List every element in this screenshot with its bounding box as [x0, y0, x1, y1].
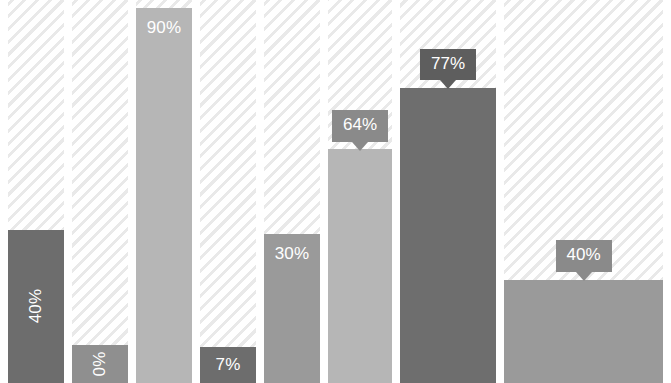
bar-label-6: 64% — [343, 115, 377, 134]
bar-callout-6: 64% — [332, 110, 388, 142]
bar-label-4: 7% — [200, 355, 256, 375]
bar-callout-8: 40% — [555, 240, 611, 272]
bar-label-2: 0% — [90, 351, 110, 376]
bar-label-7: 77% — [431, 54, 465, 73]
column-track-8: 40% — [504, 0, 663, 383]
callout-tail-8 — [576, 272, 592, 281]
column-track-6: 64% — [328, 0, 392, 383]
bar-label-8: 40% — [566, 245, 600, 264]
bar-7-fill[interactable] — [400, 88, 496, 383]
bar-6[interactable] — [328, 149, 392, 383]
column-track-5: 30% — [264, 0, 320, 383]
column-7-content: 77% — [400, 0, 496, 383]
bar-label-5: 30% — [264, 244, 320, 264]
column-track-3: 90% — [136, 0, 192, 383]
bar-4[interactable]: 7% — [200, 347, 256, 383]
bar-5[interactable]: 30% — [264, 234, 320, 383]
bar-label-3: 90% — [136, 18, 192, 38]
bar-callout-7: 77% — [420, 49, 476, 81]
column-track-2: 0% — [72, 0, 128, 383]
column-track-4: 7% — [200, 0, 256, 383]
column-track-1: 40% — [8, 0, 64, 383]
bar-8[interactable] — [504, 280, 663, 383]
bar-2[interactable]: 0% — [72, 345, 128, 383]
bar-1[interactable]: 40% — [8, 230, 64, 383]
bar-3[interactable]: 90% — [136, 8, 192, 383]
callout-tail-7 — [440, 80, 456, 89]
callout-tail-6 — [352, 142, 368, 151]
bar-label-1: 40% — [26, 289, 46, 324]
bar-chart: 40% 0% 90% 7% 30% 64% — [0, 0, 671, 383]
